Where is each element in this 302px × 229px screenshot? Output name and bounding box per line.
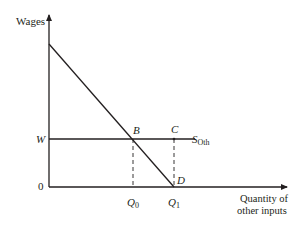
wage-label: W [36,133,46,145]
x-axis-label-line1: Quantity of [240,193,289,204]
x-axis-label-line2: other inputs [237,205,287,216]
origin-label: 0 [38,180,44,192]
point-c-dot [173,138,176,141]
y-axis-label: Wages [16,15,45,27]
q0-label: Q0 [127,196,139,210]
point-c-label: C [171,123,179,135]
demand-line [49,44,174,187]
q1-label: Q1 [168,196,180,210]
point-d-label: D [176,174,185,186]
supply-label: SOth [192,133,210,147]
wage-diagram: Wages W 0 B C D SOth Q0 Q1 Quantity of o… [0,0,302,229]
point-b-label: B [133,124,140,136]
